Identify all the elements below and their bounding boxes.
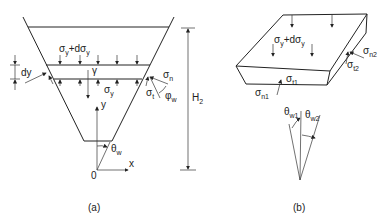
dy-label: dy xyxy=(21,67,32,78)
theta-w2-label: θw2 xyxy=(305,109,320,122)
axis-x-label: x xyxy=(129,158,134,169)
sigma-n2-arrow xyxy=(350,52,364,58)
sigma-n1-arrow xyxy=(277,80,281,95)
sigma-y-label: σy xyxy=(104,84,114,98)
slab-stress-arrows xyxy=(273,15,332,56)
figure-b: σy+dσy σt1 σn1 σn2 σt2 θw1 θw2 (b) xyxy=(236,14,377,213)
dy-dimension xyxy=(10,55,20,90)
gamma-label: γ xyxy=(92,65,97,76)
axis-y-label: y xyxy=(101,99,106,110)
theta-w1-arc xyxy=(292,118,300,128)
caption-b: (b) xyxy=(293,202,305,213)
wall2-line xyxy=(300,115,320,180)
wall1-line xyxy=(289,124,300,180)
sigma-n-label: σn xyxy=(163,69,173,82)
h2-label: H2 xyxy=(192,92,203,105)
theta-w-label: θw xyxy=(111,143,123,156)
sigma-t-label: σt xyxy=(146,87,154,100)
hopper-stress-diagram: dy σy+dσy γ σy σn σt φw H2 y x xyxy=(0,0,387,222)
bottom-stress-arrows xyxy=(60,80,137,86)
vertical-reference-line xyxy=(300,111,301,180)
sigma-n1-label: σn1 xyxy=(255,87,269,100)
origin-label: 0 xyxy=(91,170,97,181)
right-wall-shear-arrow xyxy=(146,77,148,86)
slab-sigma-label: σy+dσy xyxy=(274,34,305,48)
theta-w-arc xyxy=(97,146,107,147)
top-stress-arrows xyxy=(60,55,137,64)
sigma-t2-label: σt2 xyxy=(347,59,359,72)
sigma-n2-label: σn2 xyxy=(363,45,377,58)
figure-a: dy σy+dσy γ σy σn σt φw H2 y x xyxy=(10,17,203,213)
caption-a: (a) xyxy=(88,202,100,213)
phi-w-label: φw xyxy=(165,90,177,103)
sigma-y-plus-label: σy+dσy xyxy=(59,43,90,57)
theta-w1-label: θw1 xyxy=(284,106,299,119)
slab-right-face xyxy=(327,14,367,85)
